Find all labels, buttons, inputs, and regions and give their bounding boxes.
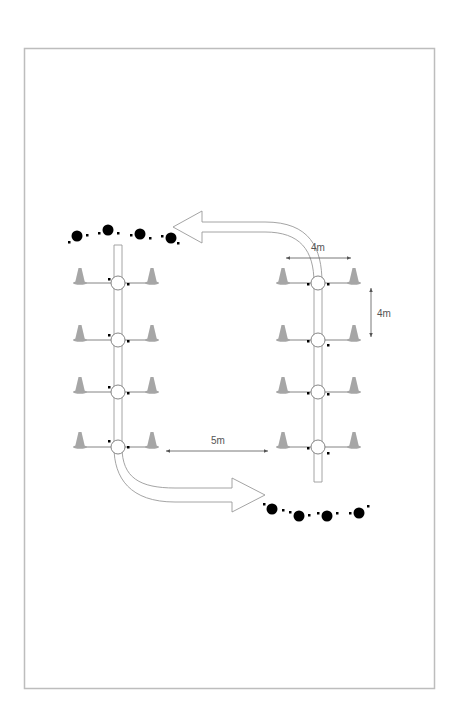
drill-diagram: 4m 4m 5m [0,0,457,719]
horizontal-spacing-label: 4m [311,242,325,253]
field-frame [25,49,435,689]
vertical-spacing-label: 4m [377,308,391,319]
lane-gap-label: 5m [211,435,225,446]
